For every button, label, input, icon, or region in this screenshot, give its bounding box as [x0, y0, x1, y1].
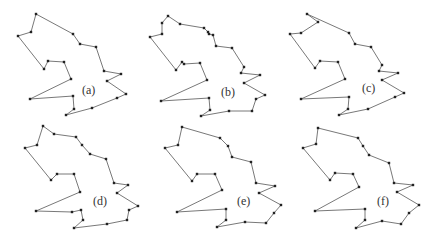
vertex-marker [231, 156, 233, 158]
vertex-marker [352, 173, 354, 175]
vertex-marker [315, 143, 317, 145]
vertex-marker [79, 43, 81, 45]
vertex-marker [337, 61, 339, 63]
vertex-marker [70, 78, 72, 80]
vertex-marker [265, 222, 267, 224]
vertex-marker [164, 147, 166, 149]
vertex-marker [42, 125, 44, 127]
vertex-marker [394, 96, 396, 98]
vertex-marker [113, 182, 115, 184]
vertex-marker [191, 180, 193, 182]
vertex-marker [368, 154, 370, 156]
vertex-marker [258, 192, 260, 194]
vertex-marker [243, 66, 245, 68]
vertex-marker [196, 173, 198, 175]
vertex-marker [381, 79, 383, 81]
panel-d: (d) [24, 125, 139, 229]
panel-a: (a) [17, 13, 127, 116]
vertex-marker [264, 94, 266, 96]
vertex-marker [317, 127, 319, 129]
vertex-marker [250, 161, 252, 163]
vertex-marker [314, 67, 316, 69]
panel-label: (f) [377, 194, 389, 208]
vertex-marker [378, 70, 380, 72]
vertex-marker [30, 31, 32, 33]
vertex-marker [400, 223, 402, 225]
vertex-marker [289, 33, 291, 35]
vertex-marker [106, 223, 108, 225]
vertex-marker [160, 100, 162, 102]
vertex-marker [396, 191, 398, 193]
vertex-marker [300, 32, 302, 34]
panel-label: (e) [237, 194, 250, 208]
vertex-marker [177, 144, 179, 146]
vertex-marker [244, 221, 246, 223]
panel-f: (f) [302, 127, 420, 229]
vertex-marker [355, 227, 357, 229]
vertex-marker [348, 96, 350, 98]
vertex-marker [216, 226, 218, 228]
vertex-marker [47, 60, 49, 62]
vertex-marker [393, 182, 395, 184]
vertex-marker [199, 62, 201, 64]
vertex-marker [35, 210, 37, 212]
vertex-marker [50, 179, 52, 181]
vertex-marker [348, 32, 350, 34]
vertex-marker [89, 153, 91, 155]
vertex-marker [175, 69, 177, 71]
vertex-marker [255, 98, 257, 100]
vertex-marker [179, 23, 181, 25]
vertex-marker [231, 47, 233, 49]
vertex-marker [73, 227, 75, 229]
vertex-marker [358, 186, 360, 188]
vertex-marker [176, 211, 178, 213]
vertex-marker [381, 64, 383, 66]
vertex-marker [388, 162, 390, 164]
vertex-marker [347, 108, 349, 110]
vertex-marker [370, 46, 372, 48]
vertex-marker [209, 109, 211, 111]
vertex-marker [207, 31, 209, 33]
vertex-marker [225, 219, 227, 221]
vertex-marker [116, 192, 118, 194]
vertex-marker [56, 173, 58, 175]
vertex-marker [215, 45, 217, 47]
panel-b: (b) [149, 15, 266, 117]
polygon-outline [290, 14, 404, 115]
vertex-marker [120, 73, 122, 75]
vertex-marker [103, 70, 105, 72]
vertex-marker [81, 144, 83, 146]
vertex-marker [273, 212, 275, 214]
panel-label: (a) [82, 83, 95, 97]
vertex-marker [95, 46, 97, 48]
vertex-marker [29, 98, 31, 100]
vertex-marker [116, 97, 118, 99]
vertex-marker [75, 136, 77, 138]
vertex-marker [225, 208, 227, 210]
vertex-marker [243, 82, 245, 84]
vertex-marker [17, 35, 19, 37]
vertex-marker [338, 114, 340, 116]
vertex-marker [206, 79, 208, 81]
vertex-marker [367, 108, 369, 110]
vertex-marker [357, 137, 359, 139]
vertex-marker [306, 13, 308, 15]
vertex-marker [181, 126, 183, 128]
polygon-outline [25, 126, 138, 228]
vertex-marker [221, 189, 223, 191]
vertex-marker [381, 220, 383, 222]
vertex-marker [319, 60, 321, 62]
vertex-marker [126, 219, 128, 221]
vertex-marker [300, 98, 302, 100]
vertex-marker [73, 173, 75, 175]
vertex-marker [106, 80, 108, 82]
panel-c: (c) [289, 13, 405, 116]
vertex-marker [72, 33, 74, 35]
vertex-marker [161, 22, 163, 24]
vertex-marker [167, 15, 169, 17]
vertex-marker [214, 173, 216, 175]
vertex-marker [240, 72, 242, 74]
vertex-marker [65, 114, 67, 116]
polygon-outline [18, 14, 126, 115]
vertex-marker [314, 210, 316, 212]
